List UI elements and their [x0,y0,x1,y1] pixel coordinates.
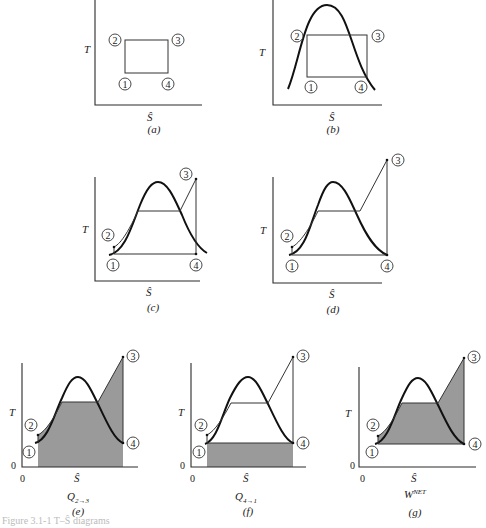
svg-text:3: 3 [396,155,401,166]
x-origin-zero: 0 [20,473,25,484]
shaded-area-q23 [38,357,123,467]
x-axis-label: Ŝ [329,111,335,123]
vapor-dome [205,377,293,444]
cycle-path [292,160,387,255]
svg-text:4: 4 [473,439,478,450]
node-3: 3 [180,168,192,180]
panel-a: 2 3 1 4 T Ŝ (a) [84,0,202,136]
panel-b: 2 3 1 4 T Ŝ (b) [259,0,384,136]
svg-text:3: 3 [472,352,477,363]
vapor-dome [289,182,387,255]
svg-text:1: 1 [290,261,295,272]
node-4: 4 [190,259,202,271]
node-3: 3 [127,350,139,362]
panel-e: 2 3 1 4 T 0 0 Ŝ Q2→3 (e) [9,350,139,518]
svg-text:3: 3 [131,351,136,362]
y-axis-label: T [260,224,267,236]
axes [95,0,202,105]
node-1: 1 [305,81,317,93]
y-axis-label: T [9,406,16,418]
svg-text:1: 1 [123,79,128,90]
node-3: 3 [297,350,309,362]
svg-text:4: 4 [301,438,306,449]
node-2: 2 [195,419,207,431]
node-4: 4 [469,438,481,450]
node-2: 2 [281,230,293,242]
vapor-dome [109,182,207,255]
cycle-path [114,179,196,254]
y-axis-label: T [178,406,185,418]
y-origin-zero: 0 [180,460,185,471]
svg-text:3: 3 [184,169,189,180]
svg-text:1: 1 [27,447,32,458]
node-1: 1 [23,446,35,458]
x-origin-zero: 0 [190,473,195,484]
carnot-cycle-rect [125,40,168,73]
svg-text:4: 4 [194,260,199,271]
node-2: 2 [25,419,37,431]
sublabel-q23: Q2→3 [67,490,89,505]
svg-text:1: 1 [370,447,375,458]
svg-text:3: 3 [376,31,381,42]
svg-text:1: 1 [111,260,116,271]
node-1: 1 [119,78,131,90]
svg-text:2: 2 [371,420,376,431]
node-1: 1 [286,260,298,272]
y-origin-zero: 0 [11,460,16,471]
node-4: 4 [297,437,309,449]
figure-caption: Figure 3.1-1 T–Ŝ diagrams [2,515,110,526]
x-axis-label: Ŝ [147,111,153,123]
node-1: 1 [107,259,119,271]
x-axis-label: Ŝ [329,288,335,300]
x-axis-label: Ŝ [411,472,417,484]
node-2: 2 [291,30,303,42]
svg-text:4: 4 [131,438,136,449]
svg-text:2: 2 [295,31,300,42]
svg-text:4: 4 [385,261,390,272]
svg-text:2: 2 [199,420,204,431]
svg-text:4: 4 [166,79,171,90]
y-axis-label: T [84,43,91,55]
y-origin-zero: 0 [350,460,355,471]
shaded-area-q41 [207,443,293,467]
node-4: 4 [355,81,367,93]
svg-text:1: 1 [197,447,202,458]
panel-label: (a) [148,123,161,136]
sublabel-q41: Q4→1 [235,490,257,505]
node-2: 2 [109,34,121,46]
panel-label: (c) [147,301,160,314]
panel-c: 2 3 1 4 T Ŝ (c) [82,168,207,314]
node-3: 3 [172,34,184,46]
x-axis-label: Ŝ [74,472,80,484]
svg-text:4: 4 [359,82,364,93]
t-s-diagram-figure: 2 3 1 4 T Ŝ (a) 2 3 1 4 T Ŝ (b) 2 3 1 4 … [0,0,486,528]
y-axis-label: T [82,223,89,235]
sublabel-wnet: WNET [404,488,427,500]
svg-text:2: 2 [29,420,34,431]
svg-text:2: 2 [113,35,118,46]
node-4: 4 [381,260,393,272]
node-1: 1 [366,446,378,458]
node-4: 4 [127,437,139,449]
y-axis-label: T [259,46,266,58]
panel-label: (g) [409,506,422,519]
node-2: 2 [367,419,379,431]
panel-label: (b) [327,123,340,136]
node-3: 3 [392,154,404,166]
x-origin-zero: 0 [360,473,365,484]
svg-text:3: 3 [176,35,181,46]
svg-text:2: 2 [106,230,111,241]
svg-text:1: 1 [309,82,314,93]
svg-text:3: 3 [301,351,306,362]
y-axis-label: T [345,407,352,419]
node-4: 4 [162,78,174,90]
node-2: 2 [102,229,114,241]
node-3: 3 [372,30,384,42]
panel-g: 2 3 1 4 T 0 0 Ŝ WNET (g) [345,351,481,519]
node-3: 3 [468,351,480,363]
panel-f: 2 3 1 4 T 0 0 Ŝ Q4→1 (f) [178,350,309,518]
panel-label: (d) [327,303,340,316]
x-axis-label: Ŝ [243,472,249,484]
x-axis-label: Ŝ [146,286,152,298]
svg-text:2: 2 [285,231,290,242]
